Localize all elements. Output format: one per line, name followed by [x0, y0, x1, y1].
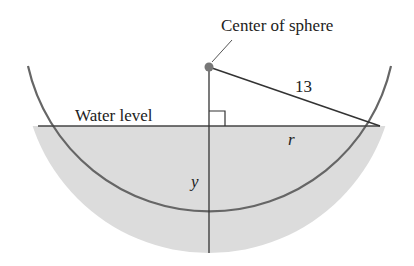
radius-label: r	[288, 130, 295, 149]
hypotenuse-line	[209, 67, 380, 126]
hemisphere-diagram: Center of sphere Water level 13 r y	[0, 0, 414, 266]
water-region	[0, 126, 414, 266]
right-angle-marker	[209, 111, 225, 126]
hypotenuse-length-label: 13	[295, 77, 312, 96]
center-leader-line	[212, 40, 232, 62]
center-of-sphere-label: Center of sphere	[221, 16, 333, 35]
center-dot-icon	[205, 63, 214, 72]
water-level-label: Water level	[75, 106, 153, 125]
depth-label: y	[189, 172, 199, 191]
